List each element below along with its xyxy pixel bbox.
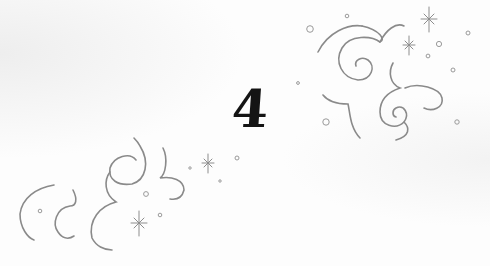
chapter-number: 4	[230, 83, 270, 135]
swirl-cluster-upper-right	[297, 7, 470, 140]
swirl-cluster-lower-left	[20, 138, 239, 250]
